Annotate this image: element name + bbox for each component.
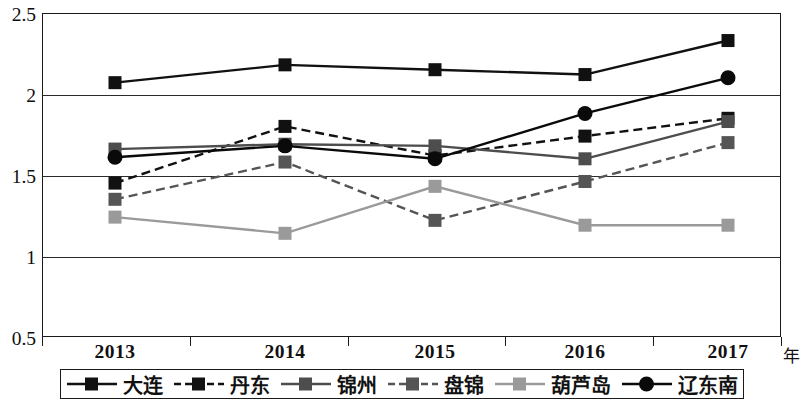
x-axis-title: 年 [783,342,800,367]
legend-item-dandong[interactable]: 丹东 [173,370,270,399]
x-axis-tick [653,337,654,346]
y-axis-tick-label: 2 [0,85,36,107]
x-axis-tick [781,337,782,346]
x-axis-label-2016: 2016 [540,341,630,363]
legend-swatch-dandong [173,374,225,394]
y-axis-tick-label: 1.5 [0,166,36,188]
legend-item-panjin[interactable]: 盘锦 [387,370,484,399]
x-axis-tick [190,337,191,346]
x-axis-label-2014: 2014 [240,341,330,363]
y-axis-tick-label: 2.5 [0,4,36,26]
legend-label-dalian: 大连 [123,370,163,399]
gridline-1_5 [43,176,780,177]
y-axis-tick-label: 1 [0,247,36,269]
legend-label-huludao: 葫芦岛 [551,370,611,399]
legend-swatch-panjin [387,374,439,394]
chart-figure: 2.5 2 1.5 1 0.5 2013 2014 2015 2016 2017… [0,0,804,402]
y-axis-tick-label: 0.5 [0,328,36,350]
legend-label-jinzhou: 锦州 [337,370,377,399]
legend-item-dalian[interactable]: 大连 [66,370,163,399]
legend-swatch-jinzhou [280,374,332,394]
legend-label-dandong: 丹东 [230,370,270,399]
plot-area [42,13,781,337]
legend-item-liaodongnan[interactable]: 辽东南 [621,370,738,399]
x-axis-label-2015: 2015 [390,341,480,363]
legend-item-jinzhou[interactable]: 锦州 [280,370,377,399]
gridline-1 [43,257,780,258]
legend-label-panjin: 盘锦 [444,370,484,399]
x-axis-tick [42,337,43,346]
legend-item-huludao[interactable]: 葫芦岛 [494,370,611,399]
x-axis-tick [348,337,349,346]
legend-swatch-liaodongnan [621,374,673,394]
x-axis-tick [505,337,506,346]
legend-swatch-huludao [494,374,546,394]
x-axis-label-2013: 2013 [70,341,160,363]
x-axis-label-2017: 2017 [683,341,773,363]
gridline-2 [43,95,780,96]
legend-swatch-dalian [66,374,118,394]
chart-legend: 大连 丹东 锦州 盘锦 [60,369,744,399]
legend-label-liaodongnan: 辽东南 [678,370,738,399]
